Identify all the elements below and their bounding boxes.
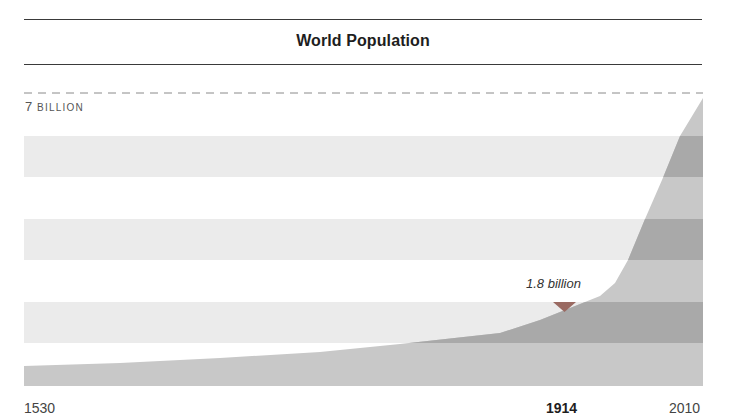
y-reference-number: 7	[25, 99, 33, 114]
population-area-chart	[0, 0, 732, 419]
y-reference-unit: BILLION	[37, 102, 84, 113]
y-reference-label: 7 BILLION	[25, 99, 84, 114]
x-label-start: 1530	[24, 400, 55, 416]
annotation-1914-label: 1.8 billion	[526, 276, 581, 291]
x-label-end: 2010	[669, 400, 700, 416]
grid-band	[24, 219, 703, 260]
x-label-1914: 1914	[546, 400, 577, 416]
grid-band	[24, 136, 703, 177]
